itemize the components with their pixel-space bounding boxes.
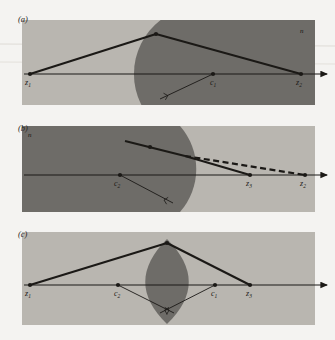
lens-vertex-point-c [165,241,169,245]
point-c1-a [211,72,215,76]
optics-figure: (a) n z1 c1 z2 [0,0,335,340]
figure-canvas: (a) n z1 c1 z2 [0,0,335,340]
point-c2-b [118,173,122,177]
panel-b-medium-label: n [28,131,32,139]
point-z2-b [303,173,307,177]
point-z3-b [248,173,252,177]
incident-marker-point-b [148,145,152,149]
panel-c-label: (c) [18,229,28,239]
point-z1-a [28,72,32,76]
point-z1-c [28,283,32,287]
panel-c: (c) z1 c2 c1 z3 [18,229,327,325]
panel-b-label: (b) [18,123,28,133]
point-z2-a [299,72,303,76]
panel-a-label: (a) [18,14,28,24]
panel-a-medium-label: n [300,27,304,35]
panel-b: (b) n c2 z3 z2 [18,123,327,212]
point-c2-c [116,283,120,287]
panel-b-dark-medium [22,126,196,212]
point-z3-c [248,283,252,287]
surface-vertex-point-a [154,32,158,36]
point-c1-c [213,283,217,287]
